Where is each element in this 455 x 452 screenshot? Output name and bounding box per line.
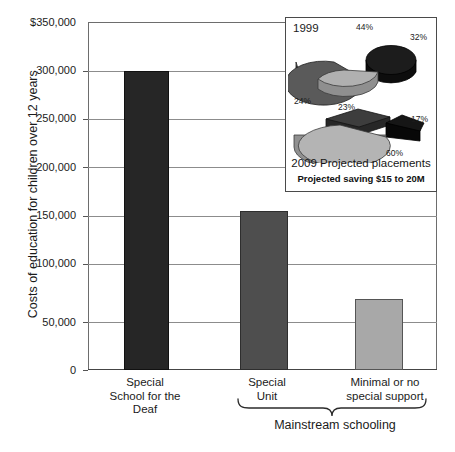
inset-subcaption: Projected saving $15 to 20M — [286, 173, 436, 184]
pie-chart-1999 — [288, 32, 428, 106]
pie-1999-label-32: 32% — [410, 32, 427, 42]
y-tick-label-200000: 200,000 — [0, 162, 76, 173]
x-axis-label-special-school: Special School for the Deaf — [84, 376, 206, 417]
pie-slice-1999-24 — [318, 70, 378, 96]
y-tick-label-100000: 100,000 — [0, 258, 76, 269]
pie-2009-label-17: 17% — [411, 114, 428, 124]
bar-special-unit[interactable] — [240, 211, 288, 370]
y-tick-label-350000: $350,000 — [0, 17, 76, 28]
mainstream-brace — [235, 398, 430, 418]
inset-pie-panel: 1999 44% 32% 24% — [285, 17, 437, 192]
y-tick-mark-0 — [83, 370, 88, 371]
bar-minimal-or-no-special-support[interactable] — [355, 299, 403, 370]
y-axis-title: Costs of education for children over 12 … — [27, 44, 40, 344]
bar-special-school-for-the-deaf[interactable] — [124, 71, 169, 370]
pie-2009-label-23: 23% — [338, 102, 355, 112]
bar-chart-figure: Costs of education for children over 12 … — [0, 0, 455, 452]
y-tick-label-50000: 50,000 — [0, 317, 76, 328]
y-tick-label-300000: 300,000 — [0, 65, 76, 76]
y-tick-label-150000: 150,000 — [0, 210, 76, 221]
inset-caption: 2009 Projected placements — [286, 157, 436, 169]
y-tick-label-250000: 250,000 — [0, 113, 76, 124]
pie-1999-label-44: 44% — [356, 22, 373, 32]
mainstream-schooling-label: Mainstream schooling — [205, 418, 455, 432]
brace-icon — [235, 398, 430, 418]
plot-border-left — [88, 22, 89, 370]
y-tick-label-0: 0 — [0, 365, 76, 376]
